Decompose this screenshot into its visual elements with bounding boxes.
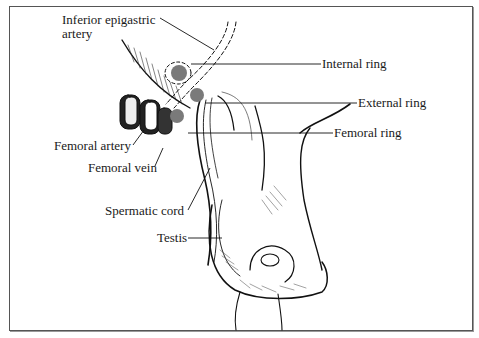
glans-outline [250,246,294,282]
femoral-ring-marker [170,109,184,123]
scrotum-hatching [220,186,306,292]
left-thigh [235,292,240,330]
femoral-vessels [120,95,172,134]
label-external-ring: External ring [358,96,426,110]
external-ring-marker [190,88,204,102]
scrotum-outline [209,205,327,299]
label-internal-ring: Internal ring [322,57,387,71]
meatus [261,254,279,266]
penis-outline-right [301,128,322,270]
label-inferior-epigastric-artery-line1: Inferior epigastric [62,13,155,27]
penis-outline-left [255,106,264,190]
label-testis: Testis [157,231,187,245]
label-femoral-ring: Femoral ring [334,126,402,140]
right-thigh [278,294,282,330]
leader-inferior-epigastric [160,18,214,50]
anatomy-drawing [0,0,479,338]
label-spermatic-cord: Spermatic cord [105,204,184,218]
label-femoral-vein: Femoral vein [88,161,157,175]
internal-ring-marker [171,65,187,81]
diagram-stage: Inferior epigastric artery Internal ring… [0,0,479,338]
label-inferior-epigastric-artery-line2: artery [62,27,92,41]
label-femoral-artery: Femoral artery [54,139,131,153]
leader-femoral-artery [133,130,144,145]
